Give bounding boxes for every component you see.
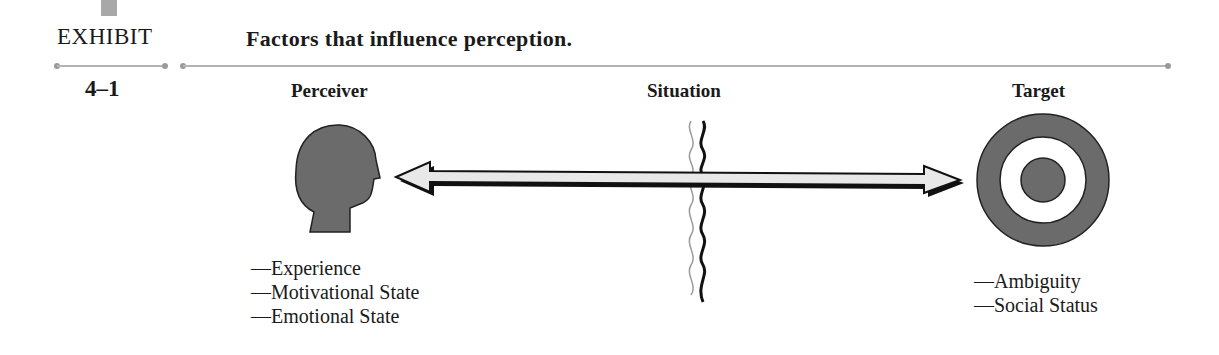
factor-item: —Motivational State — [251, 280, 419, 304]
double-arrow-icon — [396, 162, 964, 197]
target-factors: —Ambiguity —Social Status — [974, 269, 1098, 317]
factor-item: —Ambiguity — [974, 269, 1098, 293]
wavy-lines-icon — [689, 121, 704, 302]
perceiver-factors: —Experience —Motivational State —Emotion… — [251, 256, 419, 328]
factor-item: —Social Status — [974, 293, 1098, 317]
bullseye-target-icon — [977, 114, 1109, 246]
factor-item: —Experience — [251, 256, 419, 280]
factor-item: —Emotional State — [251, 304, 419, 328]
head-profile-icon — [296, 125, 380, 232]
